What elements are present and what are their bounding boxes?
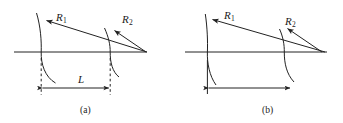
radius-ray-b2	[288, 29, 323, 53]
subscript-1b: 1	[231, 14, 235, 23]
lens-surface-a1	[37, 13, 56, 83]
lens-surface-b2	[280, 29, 295, 82]
optics-figure: R1 R2 L (a) R1 R2 (b)	[0, 0, 343, 123]
label-R2-panel-a: R2	[122, 14, 133, 26]
label-R2-panel-b: R2	[285, 16, 296, 28]
subscript-2b: 2	[292, 20, 296, 29]
radius-ray-a2	[115, 31, 147, 53]
panel-b	[185, 14, 327, 94]
radius-ray-b1	[213, 20, 326, 53]
label-R1-panel-a: R1	[56, 12, 67, 24]
label-R1-panel-b: R1	[224, 10, 235, 22]
subscript-1a: 1	[63, 16, 67, 25]
caption-panel-b: (b)	[262, 106, 273, 116]
label-L: L	[78, 74, 84, 85]
caption-panel-a: (a)	[80, 106, 91, 116]
subscript-2a: 2	[129, 18, 133, 27]
